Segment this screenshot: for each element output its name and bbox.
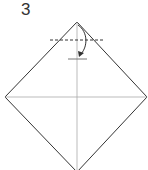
paper-outline — [5, 22, 147, 170]
origami-diagram — [0, 0, 148, 170]
